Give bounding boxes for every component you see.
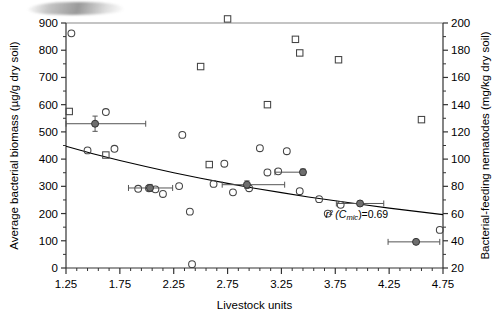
data-point-open-square — [264, 101, 270, 107]
xtick-label: 2.75 — [216, 278, 238, 290]
y2tick-label: 20 — [451, 262, 464, 274]
y2tick-label: 180 — [451, 44, 470, 56]
data-point-filled-circle — [92, 120, 99, 127]
mean-point-with-error-bars — [388, 238, 440, 245]
data-point-open-circle — [179, 131, 186, 138]
data-point-filled-circle — [299, 169, 306, 176]
r-squared-annotation: r² (Cmic)=0.69 — [325, 208, 388, 223]
data-point-open-circle — [264, 169, 271, 176]
data-point-open-square — [297, 50, 303, 56]
annotation-value: )=0.69 — [358, 208, 388, 220]
y2tick-label: 40 — [451, 235, 464, 247]
data-point-open-circle — [436, 226, 443, 233]
data-point-open-circle — [111, 145, 118, 152]
data-point-open-square — [66, 108, 72, 114]
data-point-open-circle — [296, 188, 303, 195]
data-point-open-square — [206, 161, 212, 167]
xtick-label: 4.75 — [432, 278, 454, 290]
data-point-filled-circle — [413, 238, 420, 245]
ytick-label: 500 — [39, 126, 58, 138]
data-point-open-circle — [68, 30, 75, 37]
data-point-open-circle — [102, 109, 109, 116]
y2tick-label: 140 — [451, 99, 470, 111]
data-point-open-circle — [160, 191, 167, 198]
data-point-filled-circle — [357, 200, 364, 207]
data-point-open-circle — [230, 189, 237, 196]
data-point-open-circle — [176, 183, 183, 190]
xtick-label: 1.25 — [55, 278, 77, 290]
ytick-label: 200 — [39, 208, 58, 220]
regression-curve — [66, 146, 443, 214]
data-point-open-square — [224, 16, 230, 22]
annotation-subscript: mic — [346, 213, 358, 222]
y2tick-label: 60 — [451, 208, 464, 220]
data-point-open-circle — [135, 185, 142, 192]
data-point-open-square — [335, 57, 341, 63]
mean-point-with-error-bars — [66, 116, 146, 131]
ytick-label: 400 — [39, 153, 58, 165]
data-point-open-circle — [84, 147, 91, 154]
ytick-label: 0 — [52, 262, 58, 274]
data-point-open-circle — [189, 261, 196, 268]
ytick-label: 100 — [39, 235, 58, 247]
chart-figure: 0100200300400500600700800900204060801001… — [0, 0, 500, 312]
ytick-label: 700 — [39, 71, 58, 83]
y2tick-label: 200 — [451, 17, 470, 29]
data-point-open-circle — [256, 145, 263, 152]
xtick-label: 4.25 — [378, 278, 400, 290]
data-point-open-circle — [186, 208, 193, 215]
data-point-filled-circle — [147, 184, 154, 191]
data-point-open-circle — [275, 168, 282, 175]
data-point-open-square — [197, 63, 203, 69]
xtick-label: 1.75 — [109, 278, 131, 290]
data-point-open-circle — [221, 160, 228, 167]
data-point-open-square — [418, 116, 424, 122]
mean-point-with-error-bars — [222, 181, 284, 189]
y2tick-label: 80 — [451, 180, 464, 192]
ytick-label: 800 — [39, 44, 58, 56]
data-point-open-circle — [210, 180, 217, 187]
ytick-label: 600 — [39, 99, 58, 111]
x-axis-title: Livestock units — [217, 299, 293, 311]
data-point-open-circle — [283, 148, 290, 155]
xtick-label: 3.25 — [270, 278, 292, 290]
data-point-filled-circle — [243, 181, 250, 188]
y2tick-label: 120 — [451, 126, 470, 138]
y2tick-label: 160 — [451, 71, 470, 83]
xtick-label: 3.75 — [324, 278, 346, 290]
annotation-r2: r² (C — [325, 208, 346, 220]
data-point-open-square — [292, 36, 298, 42]
y2-axis-title: Bacterial-feeding nematodes (mg/kg dry s… — [479, 31, 491, 259]
y-axis-title: Average bacterial biomass (µg/g dry soil… — [8, 41, 20, 250]
xtick-label: 2.25 — [163, 278, 185, 290]
ytick-label: 300 — [39, 180, 58, 192]
y2tick-label: 100 — [451, 153, 470, 165]
ytick-label: 900 — [39, 17, 58, 29]
